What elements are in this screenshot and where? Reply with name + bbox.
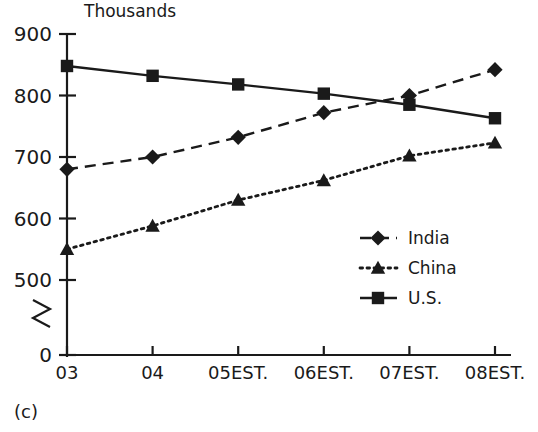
axis-unit-label: Thousands [83,1,176,21]
x-tick-label: 05EST. [208,362,268,383]
data-point-marker [487,62,502,77]
data-point-marker [403,99,415,111]
x-axis-ticks: 030405EST.06EST.07EST.08EST. [56,346,526,383]
x-tick-label: 07EST. [379,362,439,383]
chart-figure: Thousands 0500600700800900 030405EST.06E… [0,0,538,432]
figure-caption: (c) [14,401,38,422]
legend-item-india[interactable]: India [360,228,450,248]
y-tick-label: 700 [14,145,52,169]
data-point-marker [232,78,244,90]
y-tick-label: 600 [14,207,52,231]
legend-item-china[interactable]: China [360,258,457,278]
legend-marker-diamond-icon [370,230,385,245]
data-point-marker [231,130,246,145]
data-point-marker [61,60,73,72]
legend-label: U.S. [408,288,442,308]
data-point-marker [318,87,330,99]
x-tick-label: 04 [141,362,164,383]
legend-label: China [408,258,457,278]
data-point-marker [59,162,74,177]
line-chart-canvas: Thousands 0500600700800900 030405EST.06E… [0,0,538,432]
data-point-marker [488,136,502,149]
data-point-marker [489,112,501,124]
chart-legend: IndiaChinaU.S. [360,228,457,308]
data-series-layer [59,60,502,255]
x-tick-label: 08EST. [465,362,525,383]
x-tick-label: 06EST. [294,362,354,383]
data-point-marker [60,242,74,255]
y-tick-label: 800 [14,84,52,108]
data-point-marker [146,70,158,82]
x-tick-label: 03 [56,362,79,383]
legend-item-us[interactable]: U.S. [360,288,442,308]
y-tick-label: 500 [14,268,52,292]
legend-marker-square-icon [372,292,384,304]
series-line [67,66,495,118]
y-tick-label: 0 [39,343,52,367]
legend-label: India [408,228,450,248]
y-tick-label: 900 [14,22,52,46]
axis-break-icon [33,300,50,327]
series-line [67,70,495,170]
data-point-marker [316,105,331,120]
data-point-marker [317,173,331,186]
series-us [61,60,501,125]
data-point-marker [145,149,160,164]
series-india [59,62,502,177]
